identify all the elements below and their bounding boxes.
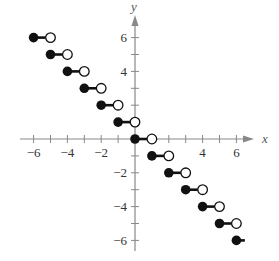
step-segment	[232, 236, 245, 246]
step-segment	[29, 33, 56, 43]
x-axis-arrow-icon	[243, 136, 254, 143]
closed-point-icon	[113, 117, 123, 127]
closed-point-icon	[130, 134, 140, 144]
x-tick-label: −4	[60, 145, 74, 160]
tick-labels: xy−6−4−24664−2−4−6	[27, 0, 268, 248]
open-point-icon	[130, 117, 140, 127]
open-point-icon	[96, 84, 106, 94]
open-point-icon	[198, 185, 208, 195]
x-tick-label: −6	[27, 145, 41, 160]
open-point-icon	[63, 50, 73, 60]
open-point-icon	[181, 168, 191, 178]
step-segment	[181, 185, 208, 195]
closed-point-icon	[96, 100, 106, 110]
x-tick-label: −2	[94, 145, 108, 160]
step-segment	[130, 134, 157, 144]
closed-point-icon	[63, 67, 73, 77]
x-axis-label: x	[261, 131, 268, 146]
closed-point-icon	[29, 33, 39, 43]
y-axis-arrow-icon	[132, 15, 139, 26]
closed-point-icon	[198, 202, 208, 212]
step-segment	[96, 100, 123, 110]
step-segment	[164, 168, 191, 178]
open-point-icon	[232, 219, 242, 229]
closed-point-icon	[215, 219, 225, 229]
y-axis-label: y	[129, 0, 137, 14]
y-tick-label: −2	[113, 165, 127, 180]
y-tick-label: −6	[113, 233, 127, 248]
step-function-plot: xy−6−4−24664−2−4−6	[0, 0, 279, 261]
step-segment	[113, 117, 140, 127]
open-point-icon	[80, 67, 90, 77]
step-segment	[198, 202, 225, 212]
step-segment	[46, 50, 73, 60]
closed-point-icon	[80, 84, 90, 94]
closed-point-icon	[232, 236, 242, 246]
closed-point-icon	[46, 50, 56, 60]
open-point-icon	[46, 33, 56, 43]
step-segment	[80, 84, 106, 94]
y-tick-label: 6	[121, 30, 128, 45]
open-point-icon	[147, 134, 157, 144]
x-tick-label: 6	[233, 145, 240, 160]
closed-point-icon	[147, 151, 157, 161]
step-segment	[147, 151, 174, 161]
y-tick-label: −4	[113, 199, 127, 214]
x-tick-label: 4	[199, 145, 206, 160]
step-segment	[63, 67, 89, 77]
y-tick-label: 4	[121, 64, 128, 79]
open-point-icon	[215, 202, 225, 212]
closed-point-icon	[181, 185, 191, 195]
axes	[20, 15, 254, 251]
open-point-icon	[164, 151, 174, 161]
open-point-icon	[113, 100, 123, 110]
closed-point-icon	[164, 168, 174, 178]
step-segment	[215, 219, 242, 229]
